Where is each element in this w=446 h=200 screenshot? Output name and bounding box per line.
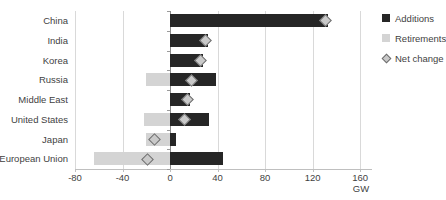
category-label: Japan [42,130,68,150]
axis-unit-label: GW [341,183,381,194]
category-tick [167,70,170,71]
bar-row [75,31,372,51]
axis-tick-label: 160 [340,172,380,183]
bar-additions [170,133,176,146]
bar-retirements [94,152,170,165]
category-label: Russia [39,70,68,90]
plot-area [75,11,372,169]
category-label: Middle East [18,90,68,110]
category-tick [167,90,170,91]
category-axis: ChinaIndiaKoreaRussiaMiddle EastUnited S… [0,11,72,169]
axis-tick-label: 40 [198,172,238,183]
legend-item[interactable]: Retirements [382,30,446,46]
bar-row [75,51,372,71]
axis-tick-label: 80 [245,172,285,183]
legend-additions-swatch-icon [382,14,390,22]
axis-tick-label: -40 [103,172,143,183]
category-label: United States [11,110,68,130]
bar-row [75,90,372,110]
category-tick [167,169,170,170]
bar-chart: ChinaIndiaKoreaRussiaMiddle EastUnited S… [0,0,446,200]
legend-retirements-swatch-icon [382,34,390,42]
category-tick [167,31,170,32]
category-tick [167,11,170,12]
category-label: India [47,31,68,51]
axis-tick-label: 0 [150,172,190,183]
category-tick [167,149,170,150]
legend-label: Additions [395,13,434,24]
bar-row [75,70,372,90]
legend-item[interactable]: Additions [382,10,446,26]
bar-row [75,110,372,130]
chart-legend: AdditionsRetirementsNet change [382,10,446,70]
bar-row [75,149,372,169]
legend-label: Net change [395,53,444,64]
legend-netchange-swatch-icon [382,53,392,63]
category-tick [167,51,170,52]
category-tick [167,110,170,111]
axis-tick-label: 120 [293,172,333,183]
category-label: European Union [0,149,68,169]
axis-tick-label: -80 [55,172,95,183]
bar-row [75,130,372,150]
bar-retirements [144,113,170,126]
value-axis-line [75,169,372,170]
bar-additions [170,152,223,165]
category-label: China [43,11,68,31]
category-label: Korea [43,51,68,71]
category-tick [167,130,170,131]
bar-retirements [146,73,170,86]
legend-label: Retirements [395,33,446,44]
bar-additions [170,14,328,27]
legend-item[interactable]: Net change [382,50,446,66]
bar-row [75,11,372,31]
